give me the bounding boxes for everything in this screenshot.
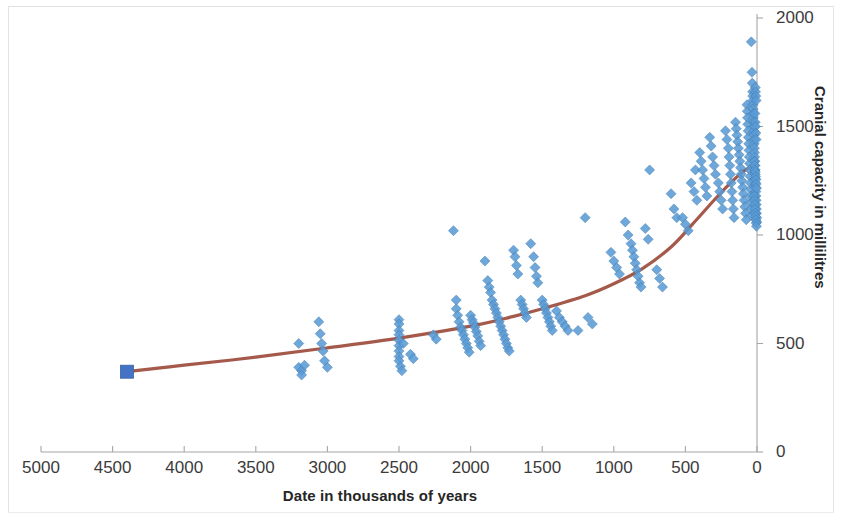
trendline-start-marker [120,365,133,378]
data-point [666,189,676,199]
data-point [692,195,702,205]
data-point [699,174,709,184]
x-tick-label: 2500 [380,458,418,478]
data-point [314,317,324,327]
x-tick-label: 500 [671,458,699,478]
data-point [511,260,521,270]
data-point [669,204,679,214]
trendline-origin-square [120,365,133,378]
data-point [315,329,325,339]
x-tick-label: 4500 [94,458,132,478]
x-tick-label: 1000 [595,458,633,478]
data-point [294,339,304,349]
data-point [708,152,718,162]
data-point [526,239,536,249]
data-point [530,263,540,273]
data-point [747,67,757,77]
data-point [645,165,655,175]
data-point [643,234,653,244]
data-point [728,195,738,205]
data-point [580,213,590,223]
data-point [702,191,712,201]
data-point [709,161,719,171]
data-point [700,182,710,192]
data-point [606,247,616,257]
scatter-plot-canvas [0,0,843,529]
data-point [724,152,734,162]
data-point [725,161,735,171]
x-tick-label: 3500 [237,458,275,478]
data-point [448,226,458,236]
data-point [686,178,696,188]
y-tick-label: 0 [776,442,785,462]
data-point [698,165,708,175]
x-tick-label: 4000 [165,458,203,478]
y-axis-title: Cranial capacity in millilitres [800,0,840,460]
data-point [696,156,706,166]
data-point [710,169,720,179]
x-tick-label: 5000 [22,458,60,478]
data-point [480,256,490,266]
data-point [529,252,539,262]
data-points-group [122,37,762,380]
data-point [689,187,699,197]
axis-lines [41,14,757,452]
data-point [706,141,716,151]
data-point [727,187,737,197]
data-point [705,132,715,142]
data-point [723,143,733,153]
x-tick-label: 2000 [452,458,490,478]
axis-tick-marks [41,18,763,452]
x-axis-title: Date in thousands of years [0,487,760,504]
data-point [620,217,630,227]
data-point [623,230,633,240]
data-point [746,37,756,47]
data-point [695,148,705,158]
trendline [127,164,757,371]
data-point [640,223,650,233]
data-point [655,273,665,283]
data-point [720,126,730,136]
data-point [728,204,738,214]
data-point [722,135,732,145]
data-point [657,282,667,292]
x-tick-label: 0 [752,458,761,478]
data-point [729,213,739,223]
x-tick-label: 3000 [308,458,346,478]
data-point [713,178,723,188]
x-tick-label: 1500 [523,458,561,478]
chart-container: 5000450040003500300025002000150010005000… [0,0,843,529]
data-point [718,204,728,214]
data-point [652,265,662,275]
data-point [513,269,523,279]
data-point [573,325,583,335]
